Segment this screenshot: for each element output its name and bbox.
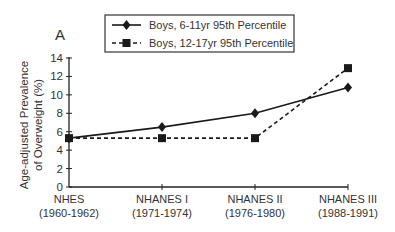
series-line [69, 87, 348, 138]
diamond-marker [158, 122, 166, 132]
x-tick-label: NHES [54, 193, 85, 205]
chart: A Boys, 6-11yr 95th PercentileBoys, 12-1… [0, 0, 395, 232]
legend-label: Boys, 6-11yr 95th Percentile [149, 19, 286, 31]
series-1 [65, 82, 352, 143]
x-tick-label-years: (1960-1962) [39, 207, 99, 219]
x-tick-label: NHANES I [136, 193, 188, 205]
y-tick-label: 12 [50, 70, 63, 82]
x-tick-label: NHANES II [227, 193, 282, 205]
y-tick-label: 0 [57, 181, 63, 193]
square-marker [251, 134, 259, 142]
square-marker [344, 64, 352, 72]
diamond-marker [344, 82, 352, 92]
y-tick-label: 2 [57, 163, 63, 175]
panel-label: A [55, 26, 65, 43]
x-tick-label: NHANES III [319, 193, 377, 205]
y-tick-label: 4 [57, 144, 64, 156]
series-2 [65, 64, 352, 142]
y-tick-label: 14 [50, 52, 63, 64]
square-marker [158, 134, 166, 142]
y-tick-label: 8 [57, 107, 63, 119]
y-axis-label: Age-adjusted Prevalence of Overweight (%… [18, 61, 44, 190]
diamond-marker [251, 108, 259, 118]
square-marker [65, 134, 73, 142]
y-tick-label: 10 [50, 89, 63, 101]
legend: Boys, 6-11yr 95th PercentileBoys, 12-17y… [105, 15, 294, 52]
y-tick-label: 6 [57, 126, 63, 138]
square-marker [123, 39, 131, 47]
x-tick-label-years: (1971-1974) [132, 207, 192, 219]
x-tick-label-years: (1976-1980) [225, 207, 285, 219]
legend-label: Boys, 12-17yr 95th Percentile [149, 37, 293, 49]
x-tick-label-years: (1988-1991) [318, 207, 378, 219]
y-axis-label-line-1: Age-adjusted Prevalence [18, 61, 30, 190]
series-line [69, 68, 348, 138]
y-axis-label-line-2: of Overweight (%) [32, 79, 44, 171]
